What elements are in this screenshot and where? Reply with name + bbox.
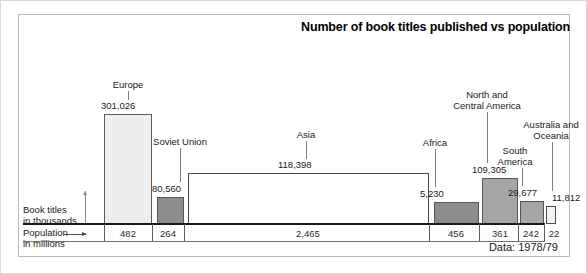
leader-line-south-america [522, 168, 523, 186]
leader-line-africa [435, 149, 436, 187]
bar-asia [188, 173, 429, 224]
value-label-asia: 118,398 [278, 159, 312, 170]
bar-europe [104, 114, 152, 224]
baseline-axis [23, 223, 545, 225]
data-source-note: Data: 1978/79 [489, 241, 558, 253]
value-label-africa: 5,230 [420, 188, 444, 199]
plot-area: Book titles in thousands Population in m… [1, 1, 587, 274]
leader-line-asia [306, 141, 307, 159]
bar-soviet-union [157, 197, 184, 224]
leader-line-europe [128, 91, 129, 100]
population-label-south-america: 242 [518, 228, 544, 239]
population-label-australia-oceania: 22 [544, 228, 564, 239]
population-label-north-central-america: 361 [482, 228, 518, 239]
value-label-soviet-union: 80,560 [152, 183, 181, 194]
bar-australia-oceania [546, 206, 556, 224]
population-label-europe: 482 [108, 228, 148, 239]
axis-tick [104, 224, 105, 241]
region-label-soviet-union: Soviet Union [147, 136, 213, 147]
leader-line-soviet-union [180, 148, 181, 182]
right-arrow-icon [64, 234, 86, 235]
y-axis-caption-line1: Book titles [23, 204, 77, 215]
bar-africa [434, 202, 479, 224]
region-label-south-america-line1: South [488, 145, 542, 156]
value-label-south-america: 29,677 [508, 187, 537, 198]
region-label-south-america-line2: America [488, 156, 542, 167]
region-label-australia-oceania: Australia and Oceania [519, 119, 583, 141]
region-label-south-america: South America [488, 145, 542, 167]
leader-line-australia-oceania [552, 142, 553, 191]
region-label-australia-oceania-line2: Oceania [519, 130, 583, 141]
axis-tick [429, 224, 430, 241]
region-label-north-central-america-line1: North and [444, 89, 530, 100]
value-label-europe: 301,026 [101, 100, 135, 111]
region-label-north-central-america-line2: Central America [444, 100, 530, 111]
population-label-soviet-union: 264 [151, 228, 185, 239]
region-label-asia: Asia [291, 129, 321, 140]
region-label-australia-oceania-line1: Australia and [519, 119, 583, 130]
chart-screenshot: Number of book titles published vs popul… [0, 0, 587, 274]
up-arrow-icon [85, 191, 86, 223]
region-label-africa: Africa [415, 137, 455, 148]
value-label-australia-oceania: 11,812 [552, 192, 580, 203]
population-axis-rule [23, 241, 545, 242]
x-axis-caption-line2: in millions [23, 238, 68, 249]
region-label-north-central-america: North and Central America [444, 89, 530, 111]
bar-south-america [520, 201, 544, 224]
region-label-europe: Europe [100, 79, 156, 90]
x-axis-caption-line1: Population [23, 227, 68, 238]
axis-tick [479, 224, 480, 241]
bar-north-central-america [482, 178, 518, 224]
population-label-asia: 2,465 [286, 228, 330, 239]
x-axis-caption: Population in millions [23, 227, 68, 249]
population-label-africa: 456 [437, 228, 475, 239]
